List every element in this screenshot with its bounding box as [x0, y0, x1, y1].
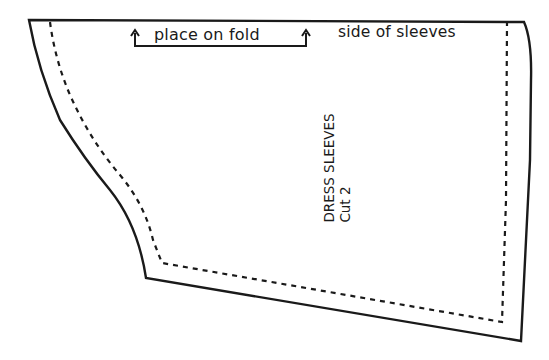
piece-title-block: DRESS SLEEVES Cut 2 [321, 113, 353, 222]
cut-line [29, 20, 531, 341]
seam-line [50, 22, 507, 322]
sleeve-pattern-piece [0, 0, 549, 360]
cut-instruction: Cut 2 [337, 113, 353, 222]
piece-name: DRESS SLEEVES [321, 113, 337, 222]
side-label: side of sleeves [338, 23, 456, 41]
fold-label: place on fold [154, 25, 260, 44]
